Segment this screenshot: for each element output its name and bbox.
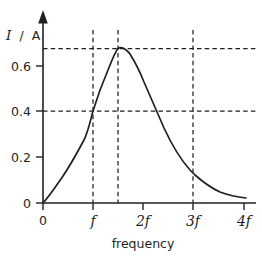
x-tick-label-4f: 4f <box>236 213 254 229</box>
x-tick-label-2f: 2f <box>135 213 153 229</box>
current-vs-frequency-chart: 0 0.2 0.4 0.6 0 f 2f 3f 4f frequency I /… <box>0 0 262 257</box>
y-tick-label-0p6: 0.6 <box>11 59 31 74</box>
y-axis-title-separator: / <box>19 28 24 43</box>
y-tick-label-0p4: 0.4 <box>11 104 31 119</box>
y-tick-label-0p2: 0.2 <box>11 150 31 165</box>
y-tick-label-0: 0 <box>23 196 31 211</box>
y-axis-title-symbol: I <box>5 27 12 43</box>
y-axis-arrow-icon <box>38 10 48 24</box>
x-tick-label-f: f <box>89 213 98 229</box>
x-axis-title: frequency <box>112 236 175 251</box>
x-tick-label-3f: 3f <box>186 213 203 229</box>
chart-figure: 0 0.2 0.4 0.6 0 f 2f 3f 4f frequency I /… <box>0 0 262 257</box>
y-axis-title-unit: A <box>32 28 41 43</box>
x-tick-label-0: 0 <box>39 213 47 228</box>
y-axis-title: I / A <box>5 25 41 44</box>
current-curve <box>43 48 246 203</box>
